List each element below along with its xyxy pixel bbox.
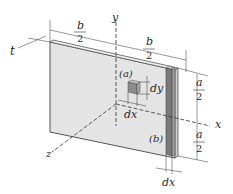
label-region-b: (b) [149, 133, 163, 144]
label-z: z [45, 148, 52, 159]
label-b-right-den: 2 [146, 50, 152, 61]
label-region-a: (a) [119, 68, 133, 79]
label-y: y [111, 11, 119, 24]
label-dx-inner: dx [124, 108, 138, 121]
strip-b-side [172, 68, 175, 156]
label-b-right-num: b [146, 35, 153, 48]
label-dx-bottom: dx [162, 176, 176, 189]
label-a-lower-den: 2 [196, 143, 202, 154]
label-x: x [215, 118, 222, 131]
label-t: t [10, 44, 15, 58]
element-a-side [137, 82, 140, 94]
plate-diagram: t b 2 y b 2 (a) dy dx (b) a 2 x a 2 z dx [0, 0, 233, 194]
label-a-upper-den: 2 [196, 91, 202, 102]
label-b-left-num: b [77, 19, 84, 32]
label-a-lower-num: a [196, 128, 203, 141]
a-dim-ext-top [178, 68, 208, 76]
t-dim-line [18, 36, 46, 48]
label-dy: dy [150, 82, 164, 95]
plate-right-edge [175, 68, 178, 158]
strip-b [166, 68, 172, 156]
label-a-upper-num: a [196, 76, 203, 89]
dx-bottom-arrow [156, 168, 182, 172]
label-b-left-den: 2 [77, 33, 83, 44]
t-dim-ext [28, 38, 50, 42]
a-dim-ext-bottom [178, 156, 208, 162]
